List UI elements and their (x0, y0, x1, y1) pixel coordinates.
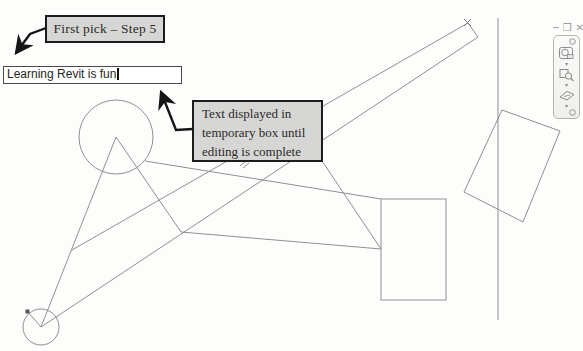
callout-first-pick: First pick – Step 5 (45, 15, 165, 43)
wheel-menu-icon[interactable] (569, 38, 576, 45)
navigation-bar: ▾ ▾ ▾ (553, 35, 580, 119)
pan-view-icon[interactable] (558, 87, 576, 103)
squiggle-b[interactable] (243, 163, 249, 168)
callout-temp-text: Text displayed in temporary box until ed… (192, 100, 323, 162)
vertex-to-rect-line[interactable] (181, 232, 381, 249)
restore-icon[interactable]: ❐ (563, 23, 572, 33)
callout-temp-text-line3: editing is complete (202, 142, 321, 161)
callout-first-pick-label: First pick – Step 5 (54, 21, 157, 36)
temporary-text-edit-box[interactable]: Learning Revit is fun (3, 66, 182, 84)
endpoint-grip[interactable] (26, 310, 30, 314)
axis-rectangle[interactable] (381, 199, 446, 300)
grip-line[interactable] (28, 312, 41, 327)
callout-temp-text-line1: Text displayed in (202, 104, 321, 123)
zoom-region-icon[interactable] (558, 66, 575, 82)
steering-wheel-icon[interactable] (558, 45, 575, 61)
pan-dropdown-icon[interactable]: ▾ (565, 103, 568, 108)
nav-options-icon[interactable] (569, 109, 576, 116)
apex-right-line[interactable] (116, 137, 181, 232)
view-window-controls: ─ ❐ ✕ (546, 22, 583, 34)
sketch-canvas (0, 0, 583, 351)
callout-temp-text-line2: temporary box until (202, 123, 321, 142)
text-input-value: Learning Revit is fun (7, 67, 116, 81)
text-cursor (117, 68, 119, 80)
revit-drawing-area: First pick – Step 5 Learning Revit is fu… (0, 0, 583, 351)
minimize-icon[interactable]: ─ (553, 23, 558, 33)
apex-left-line[interactable] (41, 137, 116, 327)
tilted-rectangle[interactable] (464, 110, 560, 222)
close-icon[interactable]: ✕ (576, 23, 583, 33)
